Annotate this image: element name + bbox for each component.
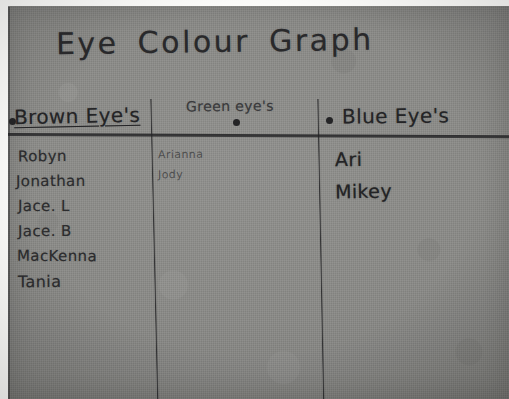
list-item: Arianna	[158, 145, 204, 166]
name-list-green-eyes: Arianna Jody	[158, 145, 203, 185]
sheet-edge-line	[8, 7, 10, 399]
list-item: Robyn	[18, 144, 98, 170]
list-item: Tania	[18, 269, 98, 295]
page-title: Eye Colour Graph	[56, 22, 374, 61]
list-item: Ari	[335, 143, 392, 176]
column-header-brown-eyes: Brown Eye's	[14, 103, 141, 130]
list-item: Jody	[158, 165, 203, 185]
list-item: Jace. B	[18, 219, 98, 245]
list-item: Mikey	[335, 175, 392, 208]
column-header-blue-eyes: Blue Eye's	[342, 103, 450, 128]
name-list-brown-eyes: Robyn Jonathan Jace. L Jace. B MacKenna …	[18, 144, 98, 294]
bullet-dot-blue-column	[326, 117, 333, 124]
photograph-of-handwritten-eye-colour-graph: Eye Colour Graph Brown Eye's Green eye's…	[0, 0, 509, 399]
list-item: Jonathan	[16, 169, 96, 194]
name-list-blue-eyes: Ari Mikey	[335, 143, 392, 207]
list-item: MacKenna	[17, 244, 97, 269]
column-header-green-eyes: Green eye's	[186, 98, 274, 115]
list-item: Jace. L	[18, 194, 98, 219]
bullet-dot-green-column	[233, 119, 240, 126]
